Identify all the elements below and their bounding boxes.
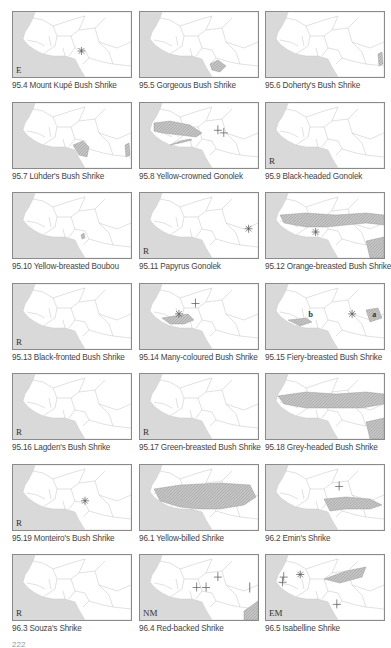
map-caption: 95.18 Grey-headed Bush Shrike (265, 443, 378, 452)
status-code: R (269, 156, 275, 166)
map-caption: 95.13 Black-fronted Bush Shrike (12, 353, 125, 362)
asterisk-marker-icon (175, 309, 183, 317)
status-code: R (16, 518, 22, 528)
status-code: NM (143, 608, 158, 618)
status-code: R (16, 608, 22, 618)
map-caption: 95.11 Papyrus Gonolek (139, 262, 221, 271)
map-caption: 95.4 Mount Kupé Bush Shrike (12, 81, 117, 90)
distribution-map: R (12, 464, 132, 531)
status-code: EM (269, 608, 283, 618)
map-caption: 96.4 Red-backed Shrike (139, 624, 224, 633)
distribution-map: R (12, 554, 132, 621)
distribution-map (139, 102, 259, 169)
map-caption: 95.15 Fiery-breasted Bush Shrike (265, 353, 382, 362)
distribution-map (139, 464, 259, 531)
map-caption: 95.10 Yellow-breasted Boubou (12, 262, 119, 271)
distribution-map: R (139, 373, 259, 440)
map-caption: 95.7 Lühder's Bush Shrike (12, 172, 104, 181)
asterisk-marker-icon (296, 571, 304, 579)
map-caption: 95.6 Doherty's Bush Shrike (265, 81, 360, 90)
asterisk-marker-icon (245, 225, 253, 233)
distribution-map (12, 102, 132, 169)
status-code: R (16, 337, 22, 347)
status-code: R (143, 246, 149, 256)
range-area (125, 143, 130, 157)
distribution-map: NM (139, 554, 259, 621)
map-caption: 95.19 Monteiro's Bush Shrike (12, 534, 115, 543)
distribution-map: R (12, 283, 132, 350)
distribution-map: R (12, 373, 132, 440)
map-caption: 96.1 Yellow-billed Shrike (139, 534, 224, 543)
map-caption: 95.17 Green-breasted Bush Shrike (139, 443, 261, 452)
map-caption: 96.3 Souza's Shrike (12, 624, 82, 633)
distribution-map (139, 283, 259, 350)
distribution-map: R (265, 102, 385, 169)
distribution-map (265, 464, 385, 531)
distribution-map (265, 192, 385, 259)
range-area (278, 392, 384, 408)
map-caption: 95.5 Gorgeous Bush Shrike (139, 81, 236, 90)
distribution-map: ba (265, 283, 385, 350)
asterisk-marker-icon (348, 309, 356, 317)
asterisk-marker-icon (77, 47, 85, 55)
status-code: R (143, 427, 149, 437)
status-code: R (16, 427, 22, 437)
distribution-map: E (12, 11, 132, 78)
asterisk-marker-icon (312, 228, 320, 236)
distribution-map: R (139, 192, 259, 259)
map-caption: 95.16 Lagden's Bush Shrike (12, 443, 110, 452)
status-code: E (16, 65, 22, 75)
distribution-map: EM (265, 554, 385, 621)
distribution-map (265, 11, 385, 78)
distribution-map (265, 373, 385, 440)
map-caption: 95.8 Yellow-crowned Gonolek (139, 172, 243, 181)
map-caption: 96.2 Emin's Shrike (265, 534, 330, 543)
range-area (378, 52, 383, 66)
map-caption: 95.9 Black-headed Gonolek (265, 172, 362, 181)
map-caption: 95.12 Orange-breasted Bush Shrike (265, 262, 391, 271)
asterisk-marker-icon (81, 496, 89, 504)
distribution-map (139, 11, 259, 78)
map-caption: 96.5 Isabelline Shrike (265, 624, 340, 633)
subspecies-letter: a (372, 309, 376, 318)
distribution-map (12, 192, 132, 259)
page-number: 222 (12, 640, 25, 648)
map-caption: 95.14 Many-coloured Bush Shrike (139, 353, 258, 362)
subspecies-letter: b (308, 309, 313, 318)
